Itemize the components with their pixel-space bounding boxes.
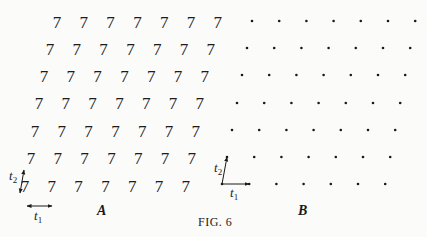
lattice-point — [382, 47, 385, 50]
motif-seven: 7 — [111, 122, 120, 141]
motif-seven: 7 — [106, 13, 115, 32]
motif-seven: 7 — [80, 149, 89, 168]
motif-seven: 7 — [160, 13, 169, 32]
lattice-point — [241, 74, 244, 77]
motif-seven: 7 — [182, 177, 191, 196]
lattice-figure: 7777777777777777777777777777777777777777… — [0, 0, 427, 237]
motif-seven: 7 — [169, 94, 178, 113]
lattice-point — [330, 183, 333, 186]
lattice-point — [377, 74, 380, 77]
lattice-point — [290, 102, 293, 105]
lattice-point — [312, 129, 315, 132]
lattice-point — [236, 102, 239, 105]
motif-seven: 7 — [46, 40, 55, 59]
t1-label: t1 — [230, 185, 238, 202]
lattice-point — [357, 183, 360, 186]
motif-seven: 7 — [147, 67, 156, 86]
panel-b-point-lattice — [221, 20, 417, 186]
lattice-point — [350, 74, 353, 77]
lattice-point — [389, 156, 392, 159]
lattice-point — [399, 102, 402, 105]
motif-seven: 7 — [196, 94, 205, 113]
lattice-point — [404, 74, 407, 77]
motif-seven: 7 — [54, 149, 63, 168]
panel-a-lattice-of-sevens: 7777777777777777777777777777777777777777… — [21, 13, 223, 196]
lattice-point — [305, 20, 308, 23]
lattice-point — [268, 74, 271, 77]
lattice-point — [322, 74, 325, 77]
lattice-point — [345, 102, 348, 105]
motif-seven: 7 — [138, 122, 147, 141]
motif-seven: 7 — [31, 122, 40, 141]
lattice-point — [231, 129, 234, 132]
motif-seven: 7 — [84, 122, 93, 141]
motif-seven: 7 — [101, 177, 110, 196]
lattice-point — [278, 20, 281, 23]
lattice-point — [384, 183, 387, 186]
motif-seven: 7 — [88, 94, 97, 113]
lattice-point — [263, 102, 266, 105]
lattice-point — [414, 20, 417, 23]
motif-seven: 7 — [142, 94, 151, 113]
motif-seven: 7 — [214, 13, 223, 32]
lattice-point — [327, 47, 330, 50]
lattice-point — [317, 102, 320, 105]
motif-seven: 7 — [62, 94, 71, 113]
lattice-point — [367, 129, 370, 132]
motif-seven: 7 — [192, 122, 201, 141]
lattice-point — [302, 183, 305, 186]
motif-seven: 7 — [201, 67, 210, 86]
lattice-point — [300, 47, 303, 50]
motif-seven: 7 — [107, 149, 116, 168]
lattice-point — [355, 47, 358, 50]
motif-seven: 7 — [67, 67, 76, 86]
lattice-point — [387, 20, 390, 23]
motif-seven: 7 — [134, 149, 143, 168]
motif-seven: 7 — [155, 177, 164, 196]
motif-seven: 7 — [126, 40, 135, 59]
motif-seven: 7 — [58, 122, 67, 141]
panel-b-label: B — [297, 203, 307, 218]
t2-arrow-icon — [222, 157, 227, 184]
lattice-point — [332, 20, 335, 23]
motif-seven: 7 — [27, 149, 36, 168]
motif-seven: 7 — [128, 177, 137, 196]
lattice-point — [394, 129, 397, 132]
motif-seven: 7 — [40, 67, 49, 86]
lattice-point — [253, 156, 256, 159]
motif-seven: 7 — [187, 13, 196, 32]
lattice-point — [362, 156, 365, 159]
panel-a-label: A — [96, 203, 106, 218]
motif-seven: 7 — [35, 94, 44, 113]
lattice-point — [275, 183, 278, 186]
lattice-point — [246, 47, 249, 50]
lattice-point — [307, 156, 310, 159]
motif-seven: 7 — [115, 94, 124, 113]
motif-seven: 7 — [120, 67, 129, 86]
lattice-point — [251, 20, 254, 23]
figure-caption: FIG. 6 — [198, 215, 232, 229]
motif-seven: 7 — [73, 40, 82, 59]
motif-seven: 7 — [93, 67, 102, 86]
t1-label: t1 — [34, 208, 42, 225]
lattice-point — [258, 129, 261, 132]
motif-seven: 7 — [180, 40, 189, 59]
lattice-point — [335, 156, 338, 159]
t2-label: t2 — [214, 160, 222, 177]
panel-b-translation-vectors: t1 t2 — [214, 157, 249, 202]
motif-seven: 7 — [161, 149, 170, 168]
panel-a-translation-vectors: t1 t2 — [9, 168, 52, 225]
motif-seven: 7 — [99, 40, 108, 59]
motif-seven: 7 — [188, 149, 197, 168]
motif-seven: 7 — [165, 122, 174, 141]
lattice-point — [360, 20, 363, 23]
lattice-point — [280, 156, 283, 159]
motif-seven: 7 — [48, 177, 57, 196]
motif-seven: 7 — [174, 67, 183, 86]
lattice-point — [340, 129, 343, 132]
lattice-point — [295, 74, 298, 77]
lattice-point — [273, 47, 276, 50]
lattice-point — [372, 102, 375, 105]
motif-seven: 7 — [80, 13, 89, 32]
motif-seven: 7 — [133, 13, 142, 32]
